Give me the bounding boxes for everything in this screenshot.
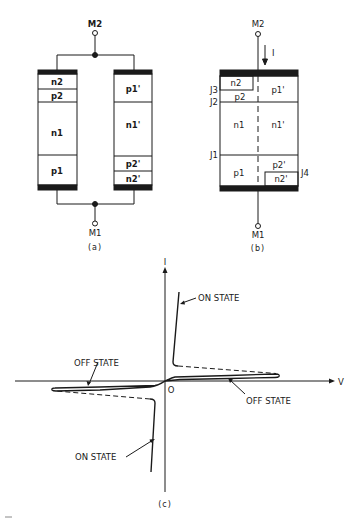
layer-n1-a: n1 — [51, 128, 63, 138]
contact-bottom-right-a — [114, 185, 152, 190]
terminal-m1-label-b: M1 — [252, 230, 265, 240]
layer-n1-b: n1 — [234, 120, 245, 130]
on-state-lower-label: ON STATE — [75, 452, 116, 462]
caption-a: (a) — [88, 243, 102, 252]
terminal-m2-label-a: M2 — [88, 19, 102, 29]
layer-n2-b: n2 — [231, 78, 242, 88]
layer-p2prime-a: p2' — [126, 159, 141, 169]
layer-p2prime-b: p2' — [272, 160, 285, 170]
contact-bottom-left-a — [38, 185, 77, 190]
layer-p1-b: p1 — [234, 168, 245, 178]
device-body-b — [220, 76, 298, 186]
current-label: I — [272, 48, 275, 58]
figure-c-labels: I V O ON STATE OFF STATE OFF STATE ON ST… — [74, 257, 344, 509]
layer-p1prime-b: p1' — [271, 85, 284, 95]
layer-n1prime-a: n1' — [126, 120, 141, 130]
layer-p2-b: p2 — [235, 92, 246, 102]
v-axis-label: V — [338, 377, 344, 387]
breakover-dashed-q3 — [56, 391, 150, 399]
junction-j1: J1 — [209, 150, 218, 160]
caption-b: (b) — [251, 244, 265, 253]
layer-p1prime-a: p1' — [126, 84, 141, 94]
figure-c-iv-characteristic — [15, 267, 335, 492]
contact-top-left-a — [38, 70, 77, 74]
contact-top-right-a — [114, 70, 152, 74]
caption-c: (c) — [158, 500, 172, 509]
on-state-curve-q3 — [150, 399, 155, 472]
off-state-curve-q1 — [165, 374, 279, 381]
breakover-dashed-q1 — [178, 366, 276, 374]
origin-label: O — [168, 385, 175, 395]
i-axis-label: I — [164, 257, 167, 267]
junction-j2: J2 — [209, 97, 218, 107]
contact-top-b — [220, 70, 298, 76]
on-state-upper-label: ON STATE — [198, 293, 239, 303]
layer-n2prime-b: n2' — [274, 174, 287, 184]
leader-on-state-lower — [126, 440, 153, 457]
layer-n1prime-b: n1' — [271, 120, 284, 130]
layer-p1-a: p1 — [51, 166, 63, 176]
layer-n2prime-a: n2' — [126, 174, 141, 184]
terminal-m1-a — [93, 221, 98, 226]
leader-off-state-right — [230, 380, 245, 394]
figure-b-labels: M2 I n2 p2 n1 p1 p1' n1' p2' n2' J3 J2 J… — [209, 19, 309, 253]
off-state-right-label: OFF STATE — [246, 396, 291, 406]
triac-diagram-canvas: M2 n2 p2 n1 p1 p1' n1' p2' n2' M1 (a) — [0, 0, 351, 521]
junction-j3: J3 — [209, 85, 218, 95]
terminal-m2-label-b: M2 — [252, 19, 265, 29]
figure-b — [220, 32, 298, 229]
off-state-left-label: OFF STATE — [74, 358, 119, 368]
terminal-m2-a — [93, 31, 98, 36]
off-state-curve-q3 — [52, 381, 165, 391]
layer-p2-a: p2 — [51, 91, 63, 101]
contact-bottom-b — [220, 186, 298, 191]
junction-j4: J4 — [300, 168, 309, 178]
layer-n2-a: n2 — [51, 77, 63, 87]
terminal-m1-b — [256, 224, 261, 229]
on-state-curve-q1 — [173, 292, 179, 366]
terminal-m1-label-a: M1 — [89, 228, 102, 238]
terminal-m2-b — [256, 32, 261, 37]
